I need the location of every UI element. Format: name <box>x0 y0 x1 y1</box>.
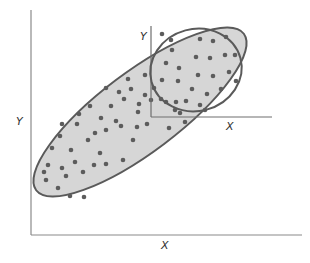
data-point <box>211 74 216 79</box>
data-point <box>224 35 229 40</box>
data-point <box>98 151 103 156</box>
data-point <box>50 146 55 151</box>
data-point <box>233 53 238 58</box>
data-point <box>208 56 213 61</box>
data-point <box>46 163 51 168</box>
data-point <box>183 120 188 125</box>
data-point <box>121 158 126 163</box>
data-point <box>184 99 189 104</box>
data-point <box>219 87 224 92</box>
data-point <box>196 73 201 78</box>
data-point <box>104 162 109 167</box>
data-point <box>68 194 73 199</box>
data-point <box>126 77 131 82</box>
inner-x-label: X <box>226 120 234 133</box>
data-point <box>194 55 199 60</box>
data-point <box>227 70 232 75</box>
data-point <box>99 116 104 121</box>
data-point <box>176 79 181 84</box>
data-point <box>164 61 169 66</box>
data-point <box>104 86 109 91</box>
data-point <box>143 93 148 98</box>
data-point <box>131 138 136 143</box>
data-point <box>223 53 228 58</box>
data-point <box>82 195 87 200</box>
data-point <box>190 87 195 92</box>
data-point <box>81 170 86 175</box>
data-point <box>234 79 239 84</box>
data-point <box>211 39 216 44</box>
data-point <box>104 128 109 133</box>
data-point <box>160 78 165 83</box>
inner-y-label: Y <box>140 30 147 43</box>
data-point <box>60 166 65 171</box>
data-point <box>114 119 119 124</box>
data-point <box>42 170 47 175</box>
data-point <box>64 174 69 179</box>
data-point <box>169 38 174 43</box>
data-point <box>75 122 80 127</box>
data-point <box>77 112 82 117</box>
data-point <box>174 100 179 105</box>
data-point <box>178 111 183 116</box>
data-point <box>173 108 178 113</box>
outer-y-label: Y <box>16 115 23 128</box>
data-point <box>122 97 127 102</box>
data-point <box>167 126 172 131</box>
data-point <box>159 97 164 102</box>
data-point <box>69 148 74 153</box>
data-point <box>198 37 203 42</box>
data-point <box>205 92 210 97</box>
data-point <box>93 131 98 136</box>
data-point <box>129 87 134 92</box>
outer-x-label: X <box>161 239 169 252</box>
data-point <box>198 103 203 108</box>
data-point <box>119 124 124 129</box>
data-point <box>117 90 122 95</box>
data-point <box>170 48 175 53</box>
data-point <box>60 122 65 127</box>
data-point <box>143 73 148 78</box>
data-point <box>73 160 78 165</box>
data-point <box>109 104 114 109</box>
data-point <box>86 138 91 143</box>
data-point <box>137 102 142 107</box>
data-point <box>136 110 141 115</box>
data-point <box>145 122 150 127</box>
data-point <box>44 178 49 183</box>
data-point <box>92 163 97 168</box>
data-point <box>177 66 182 71</box>
data-point <box>135 125 140 130</box>
data-point <box>88 104 93 109</box>
diagram-canvas <box>0 0 310 263</box>
data-point <box>58 134 63 139</box>
data-point <box>160 32 165 37</box>
data-point <box>56 186 61 191</box>
